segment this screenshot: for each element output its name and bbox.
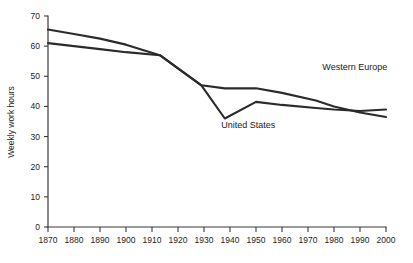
x-tick-label: 1950 <box>247 235 266 245</box>
x-tick-label: 1910 <box>143 235 162 245</box>
x-axis-ticks <box>48 227 386 232</box>
y-tick-label: 70 <box>31 11 41 21</box>
line-chart: 010203040506070 187018801890190019101920… <box>0 0 413 263</box>
y-tick-label: 60 <box>31 41 41 51</box>
y-tick-label: 10 <box>31 192 41 202</box>
series-lines <box>48 30 386 119</box>
x-tick-label: 1970 <box>299 235 318 245</box>
y-tick-label: 30 <box>31 132 41 142</box>
y-tick-label: 20 <box>31 162 41 172</box>
x-tick-label: 1880 <box>65 235 84 245</box>
x-tick-label: 1890 <box>91 235 110 245</box>
x-tick-label: 1960 <box>273 235 292 245</box>
x-tick-label: 1990 <box>351 235 370 245</box>
y-axis-title: Weekly work hours <box>6 86 16 158</box>
x-tick-label: 1940 <box>221 235 240 245</box>
x-tick-label: 1920 <box>169 235 188 245</box>
series-annotations: Western EuropeUnited States <box>221 62 387 129</box>
x-tick-label: 1930 <box>195 235 214 245</box>
y-tick-label: 40 <box>31 101 41 111</box>
y-axis-tick-labels: 010203040506070 <box>31 11 41 232</box>
x-tick-label: 2000 <box>377 235 396 245</box>
chart-container: 010203040506070 187018801890190019101920… <box>0 0 413 263</box>
series-label-united-states: United States <box>221 120 276 130</box>
series-label-western-europe: Western Europe <box>322 62 387 72</box>
x-tick-label: 1870 <box>39 235 58 245</box>
y-tick-label: 0 <box>35 222 40 232</box>
series-line-western-europe <box>48 30 386 117</box>
x-axis-tick-labels: 1870188018901900191019201930194019501960… <box>39 235 396 245</box>
y-tick-label: 50 <box>31 71 41 81</box>
x-tick-label: 1900 <box>117 235 136 245</box>
x-tick-label: 1980 <box>325 235 344 245</box>
